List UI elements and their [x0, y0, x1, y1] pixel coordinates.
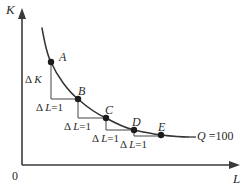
delta-l-label-de: Δ L=1	[120, 139, 147, 150]
delta-k-symbol: Δ	[25, 73, 31, 85]
isoquant-variable: Q	[197, 129, 206, 143]
delta-l-equals-de: =1	[135, 138, 147, 150]
delta-l-label-bc: Δ L=1	[64, 121, 91, 132]
x-axis-arrowhead	[229, 161, 240, 169]
delta-l-equals-ab: =1	[51, 101, 63, 113]
delta-l-label-cd: Δ L=1	[92, 133, 119, 144]
isoquant-label: Q =100	[197, 130, 233, 142]
isoquant-figure: K L 0 A B C D E Δ K Δ L=1 Δ L=1 Δ L=1 Δ …	[0, 0, 250, 191]
origin-label: 0	[12, 170, 18, 182]
point-label-c: C	[105, 104, 113, 116]
point-marker-a	[48, 59, 54, 65]
point-label-d: D	[132, 116, 141, 128]
y-axis-arrowhead	[18, 8, 26, 19]
delta-k-step-group	[51, 62, 78, 99]
isoquant-value: =100	[209, 129, 234, 143]
delta-l-symbol-de: Δ	[120, 138, 126, 150]
delta-l-equals-cd: =1	[107, 132, 119, 144]
point-label-a: A	[59, 51, 66, 63]
y-axis-label: K	[6, 3, 15, 16]
delta-l-label-ab: Δ L=1	[36, 102, 63, 113]
point-label-e: E	[158, 121, 165, 133]
delta-l-symbol-cd: Δ	[92, 132, 98, 144]
delta-l-equals-bc: =1	[79, 120, 91, 132]
delta-l-symbol-ab: Δ	[36, 101, 42, 113]
point-label-b: B	[78, 85, 85, 97]
isoquant-canvas	[0, 0, 250, 191]
x-axis-label: L	[233, 172, 240, 185]
delta-k-label: Δ K	[25, 74, 42, 85]
delta-k-variable: K	[34, 73, 41, 85]
delta-l-symbol-bc: Δ	[64, 120, 70, 132]
